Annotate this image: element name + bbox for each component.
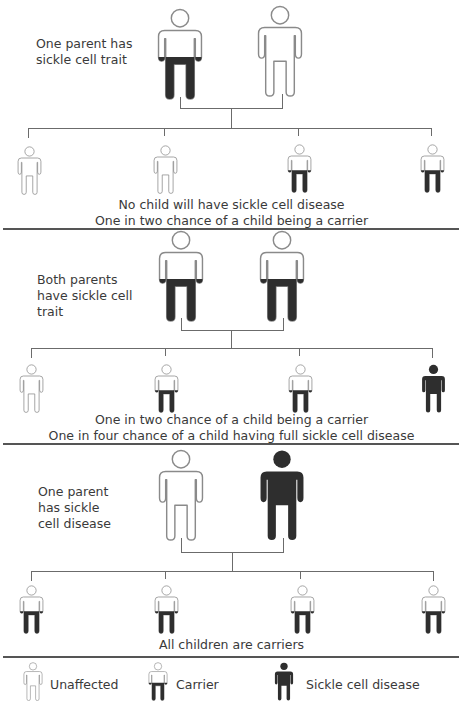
connector — [165, 571, 166, 579]
section-2-caption-1: One in two chance of a child being a car… — [0, 412, 463, 428]
carrier-child-icon — [420, 144, 445, 193]
connector — [181, 538, 182, 553]
section-2-caption-2: One in four chance of a child having ful… — [0, 428, 463, 444]
section-divider — [3, 443, 459, 445]
section-3-label: One parent has sickle cell disease — [38, 484, 111, 532]
section-1-label: One parent has sickle cell trait — [36, 36, 132, 68]
section-2-label: Both parents have sickle cell trait — [37, 272, 132, 320]
unaffected-child-icon — [17, 146, 42, 195]
legend-carrier-label: Carrier — [176, 677, 219, 692]
connector — [300, 571, 301, 579]
carrier-child-icon — [287, 144, 312, 193]
label-line: One parent — [38, 484, 111, 500]
connector — [31, 571, 32, 581]
disease-parent-icon — [258, 449, 306, 541]
connector — [231, 330, 232, 348]
legend-disease-label: Sickle cell disease — [306, 677, 420, 692]
section-1-caption-1: No child will have sickle cell disease — [0, 197, 463, 213]
connector — [164, 128, 165, 136]
section-divider — [3, 228, 459, 230]
connector — [181, 318, 182, 330]
unaffected-child-icon — [153, 145, 178, 194]
carrier-child-icon — [154, 364, 179, 413]
sibling-line — [31, 571, 434, 572]
sibling-line — [31, 348, 433, 349]
connector — [283, 318, 284, 330]
connector — [232, 552, 233, 571]
unaffected-parent-icon — [256, 5, 304, 97]
unaffected-child-icon — [19, 364, 44, 413]
legend-unaffected-label: Unaffected — [50, 677, 118, 692]
section-3-caption-1: All children are carriers — [0, 637, 463, 653]
connector — [231, 108, 232, 128]
label-line: sickle cell trait — [36, 52, 132, 68]
label-line: trait — [37, 304, 132, 320]
label-line: cell disease — [38, 516, 111, 532]
label-line: One parent has — [36, 36, 132, 52]
carrier-parent-icon — [157, 230, 205, 322]
connector — [282, 94, 283, 109]
connector — [432, 348, 433, 358]
sibling-line — [28, 128, 432, 129]
carrier-child-icon — [421, 585, 446, 634]
connector — [433, 571, 434, 581]
carrier-child-icon — [288, 364, 313, 413]
carrier-legend-icon — [148, 662, 168, 701]
label-line: has sickle — [38, 500, 111, 516]
connector — [28, 128, 29, 138]
connector — [181, 330, 284, 331]
carrier-child-icon — [154, 585, 179, 634]
connector — [283, 538, 284, 553]
disease-legend-icon — [274, 662, 294, 701]
carrier-parent-icon — [258, 230, 306, 322]
carrier-child-icon — [290, 585, 315, 634]
section-1-caption-2: One in two chance of a child being a car… — [0, 213, 463, 229]
label-line: Both parents — [37, 272, 132, 288]
unaffected-legend-icon — [23, 662, 43, 701]
disease-child-icon — [421, 364, 446, 413]
label-line: have sickle cell — [37, 288, 132, 304]
carrier-child-icon — [19, 585, 44, 634]
carrier-parent-icon — [156, 8, 204, 100]
connector — [298, 128, 299, 136]
connector — [165, 348, 166, 356]
section-divider — [3, 656, 459, 658]
connector — [299, 348, 300, 356]
unaffected-parent-icon — [157, 449, 205, 541]
connector — [431, 128, 432, 136]
connector — [31, 348, 32, 358]
